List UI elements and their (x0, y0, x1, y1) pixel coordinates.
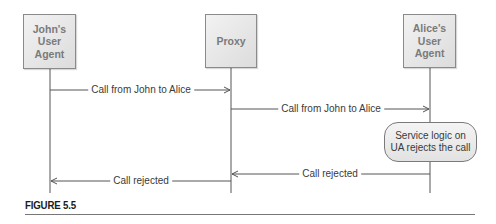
sequence-diagram: John's User Agent Proxy Alice's User Age… (0, 0, 496, 224)
message-label: Call rejected (299, 168, 361, 180)
actor-john-user-agent: John's User Agent (23, 14, 76, 69)
actor-label: Proxy (216, 35, 245, 48)
message-label: Call from John to Alice (278, 103, 384, 115)
actor-label: Alice's User Agent (413, 22, 446, 60)
message-label: Call rejected (110, 175, 172, 187)
actor-label: John's User Agent (33, 23, 66, 61)
caption-divider (25, 214, 475, 215)
actor-alice-user-agent: Alice's User Agent (403, 14, 456, 68)
actor-proxy: Proxy (205, 14, 257, 68)
message-label: Call from John to Alice (88, 84, 194, 96)
note-service-logic: Service logic on UA rejects the call (384, 122, 477, 162)
figure-caption: FIGURE 5.5 (25, 199, 76, 211)
note-label: Service logic on UA rejects the call (390, 130, 470, 155)
